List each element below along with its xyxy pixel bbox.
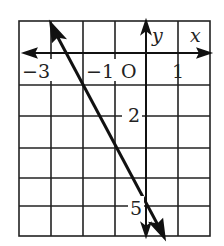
tick-label-neg3: −3 — [22, 60, 50, 82]
origin-label: O — [121, 60, 137, 82]
tick-label-1: 1 — [172, 60, 184, 82]
x-axis — [24, 49, 210, 57]
tick-label-neg5: 5 — [130, 197, 142, 219]
coordinate-plane: −3 −1 O 1 2 5 y x — [0, 0, 224, 246]
y-axis-label: y — [151, 24, 163, 46]
tick-label-neg2: 2 — [128, 104, 140, 126]
graphed-line — [51, 24, 164, 237]
tick-label-neg1: −1 — [86, 60, 114, 82]
x-axis-label: x — [190, 24, 201, 46]
